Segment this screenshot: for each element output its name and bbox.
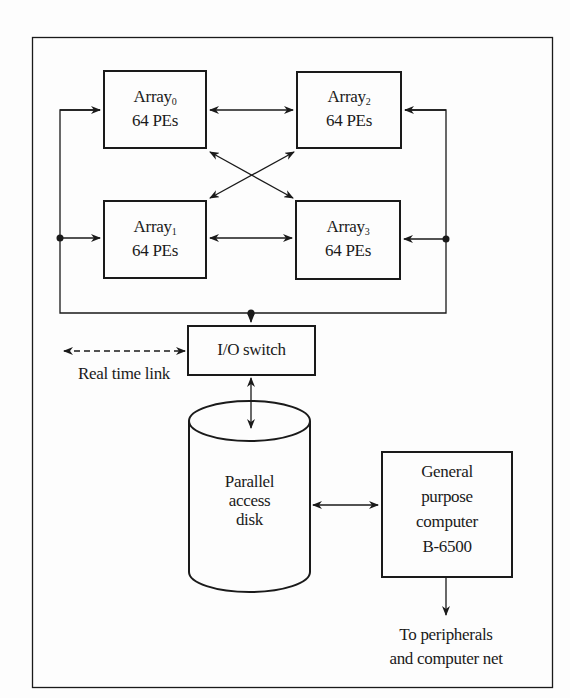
disk-label: Parallel access disk xyxy=(189,472,310,529)
computer-label: General purpose computer B-6500 xyxy=(382,459,512,559)
real-time-link-label: Real time link xyxy=(62,364,186,383)
array1-label: Array1 64 PEs xyxy=(104,217,206,260)
output-label: To peripherals and computer net xyxy=(366,623,526,671)
junction-bottom xyxy=(248,310,255,317)
outer-frame xyxy=(33,38,553,688)
junction-right xyxy=(443,236,450,243)
junction-left xyxy=(57,235,64,242)
io-switch-label: I/O switch xyxy=(188,340,315,359)
array2-label: Array2 64 PEs xyxy=(297,87,401,130)
array3-label: Array3 64 PEs xyxy=(296,217,400,260)
left-bus xyxy=(60,110,446,313)
array0-label: Array0 64 PEs xyxy=(104,87,206,130)
